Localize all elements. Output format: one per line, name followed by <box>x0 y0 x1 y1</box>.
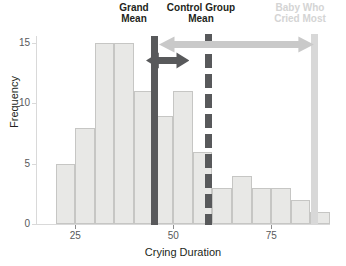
x-axis-title: Crying Duration <box>36 246 330 258</box>
control-group-mean-line <box>205 34 212 225</box>
x-tick-label: 75 <box>256 230 286 241</box>
x-tick-label: 50 <box>158 230 188 241</box>
chart-figure: Grand Mean Control Group Mean Baby Who C… <box>0 0 346 266</box>
x-tick-label: 25 <box>60 230 90 241</box>
x-tick-mark <box>75 225 76 229</box>
x-tick-mark <box>173 225 174 229</box>
x-tick-mark <box>271 225 272 229</box>
short-span-arrow-icon <box>146 52 189 70</box>
baby-who-cried-most-line <box>311 34 318 225</box>
